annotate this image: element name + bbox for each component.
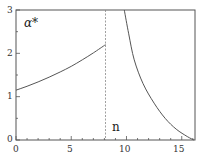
x-tick-label: 10 — [119, 144, 131, 154]
y-tick-label: 3 — [7, 5, 13, 15]
x-tick-label: 5 — [67, 144, 73, 154]
left-branch-curve — [16, 45, 106, 90]
y-tick-label: 1 — [7, 91, 13, 101]
y-tick-label: 2 — [7, 48, 13, 58]
y-tick-label: 0 — [7, 134, 13, 144]
chart: 3 2 1 0 0 5 10 15 α* n — [0, 0, 209, 156]
y-axis-label: α* — [24, 16, 38, 30]
x-tick-label: 0 — [13, 144, 19, 154]
right-branch-curve — [124, 10, 194, 140]
x-tick-label: 15 — [173, 144, 185, 154]
x-axis-label: n — [112, 120, 120, 134]
